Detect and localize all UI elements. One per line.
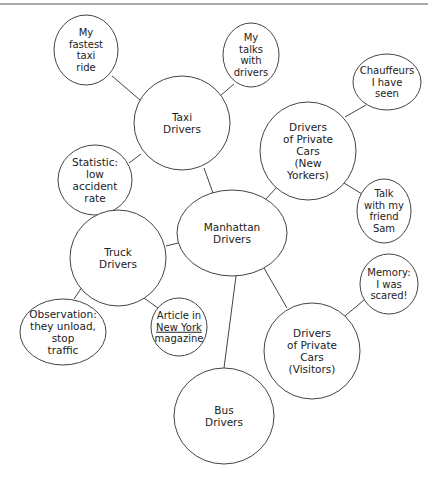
node-label-line: I was (367, 278, 410, 290)
node-label-line: Drivers (283, 121, 333, 133)
node-label-line: accident (72, 180, 118, 192)
node-label-talks-drivers: Mytalkswithdrivers (234, 32, 269, 78)
node-label-private-ny: Driversof PrivateCars(NewYorkers) (283, 121, 333, 181)
node-label-line: Truck (99, 246, 137, 258)
node-label-line: rate (72, 192, 118, 204)
node-label-line: magazine (155, 333, 204, 345)
node-label-line: Statistic: (72, 156, 118, 168)
edge-truck-article (144, 298, 158, 308)
node-label-line: ride (69, 62, 103, 74)
node-label-line: My (234, 32, 269, 44)
node-label-private-visitors: Driversof PrivateCars(Visitors) (287, 327, 337, 375)
edge-private-visitors-memory (345, 300, 364, 316)
node-label-line: New York (155, 321, 204, 333)
node-label-taxi: TaxiDrivers (163, 111, 201, 135)
node-label-line: Bus (205, 404, 243, 416)
edge-manhattan-taxi (204, 168, 213, 193)
node-label-truck: TruckDrivers (99, 246, 137, 270)
node-label-manhattan: ManhattanDrivers (204, 221, 261, 245)
node-label-line: of Private (283, 133, 333, 145)
node-label-observation: Observation:they unload,stoptraffic (29, 308, 96, 356)
edge-private-ny-friend-sam (344, 183, 362, 194)
node-label-line: Drivers (99, 258, 137, 270)
node-label-line: Article in (155, 310, 204, 322)
node-label-line: taxi (69, 50, 103, 62)
node-label-line: they unload, (29, 320, 96, 332)
node-label-line: of Private (287, 339, 337, 351)
node-label-fastest-ride: Myfastesttaxiride (69, 27, 103, 73)
node-label-line: Drivers (204, 233, 261, 245)
node-label-line: Yorkers) (283, 169, 333, 181)
node-label-statistic: Statistic:lowaccidentrate (72, 156, 118, 204)
node-label-line: with (234, 55, 269, 67)
node-label-line: seen (360, 88, 415, 100)
node-label-line: Drivers (163, 123, 201, 135)
node-label-line: Cars (287, 351, 337, 363)
node-label-friend-sam: Talkwith myfriendSam (364, 188, 404, 234)
node-label-line: Chauffeurs (360, 65, 415, 77)
node-label-line: Sam (364, 223, 404, 235)
node-label-line: with my (364, 200, 404, 212)
node-label-line: traffic (29, 344, 96, 356)
node-label-line: Talk (364, 188, 404, 200)
node-label-bus: BusDrivers (205, 404, 243, 428)
node-label-line: Taxi (163, 111, 201, 123)
edge-manhattan-bus (224, 276, 236, 368)
node-label-line: Memory: (367, 267, 410, 279)
node-label-line: My (69, 27, 103, 39)
edge-manhattan-private-visitors (264, 268, 287, 308)
node-label-line: (New (283, 157, 333, 169)
node-label-line: friend (364, 211, 404, 223)
node-label-article: Article inNew Yorkmagazine (155, 310, 204, 345)
node-label-line: talks (234, 44, 269, 56)
edge-private-ny-chauffeurs (345, 105, 366, 117)
node-label-memory: Memory:I wasscared! (367, 267, 410, 302)
node-label-line: (Visitors) (287, 363, 337, 375)
node-label-line: Manhattan (204, 221, 261, 233)
edge-taxi-statistic (129, 154, 141, 163)
node-label-line: fastest (69, 39, 103, 51)
node-label-chauffeurs: ChauffeursI haveseen (360, 65, 415, 100)
edge-taxi-talks-drivers (220, 84, 234, 96)
node-label-line: scared! (367, 290, 410, 302)
node-label-line: I have (360, 76, 415, 88)
edge-manhattan-truck (166, 243, 178, 246)
node-label-line: low (72, 168, 118, 180)
edge-taxi-fastest-ride (112, 76, 140, 100)
node-label-line: Cars (283, 145, 333, 157)
node-label-line: stop (29, 332, 96, 344)
node-label-line: Drivers (205, 416, 243, 428)
node-label-line: drivers (234, 67, 269, 79)
node-label-line: Observation: (29, 308, 96, 320)
edge-manhattan-private-ny (266, 187, 277, 199)
node-label-line: Drivers (287, 327, 337, 339)
